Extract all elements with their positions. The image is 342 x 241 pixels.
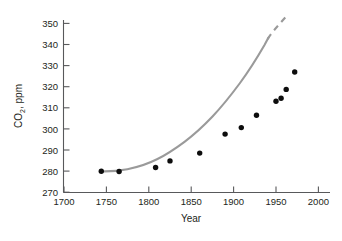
y-axis-tick-labels: 350 340 330 320 310 300 290 280 270 (42, 18, 58, 198)
y-axis-title: CO2, ppm (13, 84, 26, 128)
data-point (239, 125, 244, 130)
x-tick-label-1700: 1700 (53, 196, 74, 207)
data-points (99, 69, 298, 174)
y-tick-label-300: 300 (42, 124, 58, 135)
x-tick-label-1750: 1750 (96, 196, 117, 207)
co2-vs-year-chart: 350 340 330 320 310 300 290 280 270 1700… (0, 0, 342, 241)
trend-curve-solid (101, 38, 268, 172)
x-axis-tick-labels: 1700 1750 1800 1850 1900 1950 2000 (53, 196, 329, 207)
x-tick-label-1950: 1950 (265, 196, 286, 207)
y-tick-label-320: 320 (42, 81, 58, 92)
data-point (292, 69, 297, 74)
y-tick-label-310: 310 (42, 102, 58, 113)
y-axis-title-main: CO2, ppm (13, 84, 26, 128)
x-tick-label-1850: 1850 (181, 196, 202, 207)
y-tick-label-330: 330 (42, 60, 58, 71)
y-tick-label-290: 290 (42, 145, 58, 156)
data-point (273, 99, 278, 104)
data-point (153, 165, 158, 170)
data-point (278, 96, 283, 101)
trend-curve-dashed (268, 16, 287, 40)
data-point (99, 169, 104, 174)
y-tick-label-350: 350 (42, 18, 58, 29)
x-axis-ticks (64, 187, 318, 193)
data-point (116, 169, 121, 174)
y-axis-title-units: , ppm (13, 84, 24, 109)
y-tick-label-340: 340 (42, 39, 58, 50)
data-point (284, 87, 289, 92)
y-axis-ticks (64, 23, 70, 192)
data-point (254, 113, 259, 118)
x-tick-label-1800: 1800 (138, 196, 159, 207)
y-axis-title-co: CO (13, 113, 24, 128)
data-point (167, 158, 172, 163)
data-point (222, 131, 227, 136)
x-tick-label-1900: 1900 (223, 196, 244, 207)
y-tick-label-280: 280 (42, 166, 58, 177)
data-point (197, 150, 202, 155)
chart-canvas: 350 340 330 320 310 300 290 280 270 1700… (0, 0, 342, 241)
x-axis-title: Year (181, 213, 202, 224)
x-tick-label-2000: 2000 (308, 196, 329, 207)
